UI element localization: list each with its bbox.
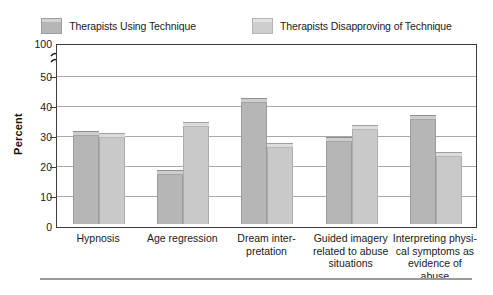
bar-group <box>57 45 141 227</box>
bar-0[interactable] <box>410 115 436 225</box>
bar-group <box>394 45 478 227</box>
bar-0[interactable] <box>73 131 99 224</box>
y-tick-label-100: 100 <box>34 39 52 50</box>
bar-0[interactable] <box>241 98 267 224</box>
bar-group <box>310 45 394 227</box>
bar-1[interactable] <box>99 133 125 224</box>
x-axis-label: Guided imageryrelated to abusesituations <box>309 232 393 270</box>
legend-swatch-icon <box>252 18 273 34</box>
legend-entry: Therapists Using Technique <box>41 18 196 34</box>
legend-entry: Therapists Disapproving of Technique <box>252 18 452 34</box>
x-axis-labels: HypnosisAge regressionDream inter-pretat… <box>56 232 477 278</box>
bar-group <box>141 45 225 227</box>
bar-1[interactable] <box>436 152 462 224</box>
x-axis-label: Dream inter-pretation <box>224 232 308 257</box>
legend-label: Therapists Disapproving of Technique <box>280 20 452 32</box>
bar-group <box>225 45 309 227</box>
bar-1[interactable] <box>267 143 293 224</box>
bar-1[interactable] <box>183 122 209 224</box>
bar-0[interactable] <box>157 170 183 224</box>
bar-groups <box>57 45 476 227</box>
chart-legend: Therapists Using Technique Therapists Di… <box>0 18 493 34</box>
bar-1[interactable] <box>352 125 378 224</box>
x-axis-label: Age regression <box>140 232 224 245</box>
x-axis-label: Interpreting physi-cal symptoms aseviden… <box>393 232 477 282</box>
y-axis-title: Percent <box>12 94 24 174</box>
bar-0[interactable] <box>326 137 352 224</box>
bottom-divider <box>40 278 472 280</box>
y-tick-label-0: 0 <box>46 222 52 233</box>
plot-area <box>56 44 477 228</box>
y-axis-labels: 100 50 40 30 20 10 0 <box>0 0 52 295</box>
legend-label: Therapists Using Technique <box>69 20 196 32</box>
x-axis-label: Hypnosis <box>56 232 140 245</box>
